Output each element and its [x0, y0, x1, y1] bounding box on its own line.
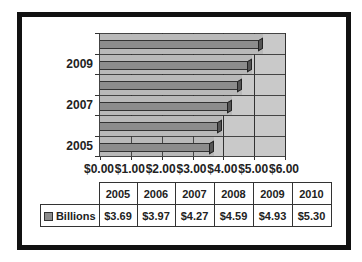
data-table-cell: $4.27: [175, 205, 214, 227]
data-table-corner: [41, 183, 100, 205]
bar-2010: [100, 40, 260, 49]
legend-swatch-icon: [44, 212, 53, 221]
data-table-header-cell: 2005: [99, 183, 137, 205]
vertical-gridline: [285, 33, 286, 156]
horizontal-gridline: [100, 156, 285, 157]
data-table-row: Billions $3.69 $3.97 $4.27 $4.59 $4.93 $…: [41, 205, 332, 227]
data-table-header-row: 2005 2006 2007 2008 2009 2010: [41, 183, 332, 205]
bar-2007: [100, 102, 229, 111]
bar-2008: [100, 81, 239, 90]
bar-2006: [100, 122, 219, 131]
data-table-header-cell: 2010: [292, 183, 331, 205]
bar-2005: [100, 143, 211, 152]
plot-area: [99, 33, 286, 156]
legend-label: Billions: [56, 210, 96, 222]
data-table-cell: $5.30: [292, 205, 331, 227]
data-table-cell: $3.97: [137, 205, 175, 227]
y-axis-label: 2007: [53, 98, 93, 112]
data-table-cell: $4.59: [214, 205, 253, 227]
y-axis-label: 2009: [53, 57, 93, 71]
y-tick: [95, 156, 100, 157]
bar-2009: [100, 61, 249, 70]
data-table-header-cell: 2007: [175, 183, 214, 205]
data-table-cell: $4.93: [253, 205, 292, 227]
data-table-header-cell: 2008: [214, 183, 253, 205]
data-table-header-cell: 2009: [253, 183, 292, 205]
y-axis-label: 2005: [53, 139, 93, 153]
x-tick: [285, 156, 286, 160]
x-axis-label: $6.00: [264, 162, 304, 176]
data-table-cell: $3.69: [99, 205, 137, 227]
data-table-header-cell: 2006: [137, 183, 175, 205]
legend-cell: Billions: [41, 205, 100, 227]
data-table: 2005 2006 2007 2008 2009 2010 Billions $…: [40, 182, 332, 227]
